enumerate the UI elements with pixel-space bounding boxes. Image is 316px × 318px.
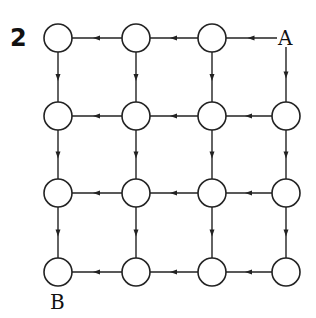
- arrow-down-icon-2-2: [210, 230, 215, 237]
- node-circle-2-0: [44, 179, 72, 207]
- diagram-canvas: 2 A B: [0, 0, 316, 318]
- grid-diagram: 2 A B: [0, 0, 316, 318]
- edges-layer: [56, 36, 289, 275]
- arrow-down-icon-1-1: [134, 152, 139, 159]
- node-circle-1-3: [272, 102, 300, 130]
- arrow-left-icon-1-1: [170, 114, 177, 119]
- arrow-down-icon-2-1: [134, 230, 139, 237]
- arrow-down-icon-1-2: [210, 152, 215, 159]
- arrow-left-icon-3-1: [170, 270, 177, 275]
- arrow-down-icon-0-0: [56, 74, 61, 81]
- arrow-down-icon-0-3: [284, 72, 289, 79]
- arrow-left-icon-0-0: [93, 36, 100, 41]
- node-circle-0-1: [122, 24, 150, 52]
- arrow-down-icon-0-1: [134, 74, 139, 81]
- figure-number: 2: [10, 24, 27, 52]
- arrow-down-icon-1-0: [56, 152, 61, 159]
- node-circle-0-0: [44, 24, 72, 52]
- node-circle-2-2: [198, 179, 226, 207]
- node-circle-1-2: [198, 102, 226, 130]
- nodes-layer: [44, 24, 300, 286]
- node-circle-1-1: [122, 102, 150, 130]
- node-circle-2-1: [122, 179, 150, 207]
- start-label-a: A: [277, 26, 293, 50]
- arrow-left-icon-2-1: [170, 191, 177, 196]
- arrow-down-icon-2-3: [284, 230, 289, 237]
- arrow-left-icon-1-2: [245, 114, 252, 119]
- arrow-left-icon-0-2: [248, 36, 255, 41]
- node-circle-3-2: [198, 258, 226, 286]
- arrow-down-icon-1-3: [284, 152, 289, 159]
- node-circle-0-2: [198, 24, 226, 52]
- node-circle-3-0: [44, 258, 72, 286]
- arrow-left-icon-2-2: [245, 191, 252, 196]
- end-label-b: B: [50, 290, 65, 314]
- arrow-left-icon-0-1: [170, 36, 177, 41]
- arrow-left-icon-1-0: [93, 114, 100, 119]
- node-circle-3-3: [272, 258, 300, 286]
- node-circle-3-1: [122, 258, 150, 286]
- node-circle-1-0: [44, 102, 72, 130]
- node-circle-2-3: [272, 179, 300, 207]
- arrow-down-icon-2-0: [56, 230, 61, 237]
- arrow-down-icon-0-2: [210, 74, 215, 81]
- arrow-left-icon-2-0: [93, 191, 100, 196]
- arrow-left-icon-3-0: [93, 270, 100, 275]
- arrow-left-icon-3-2: [245, 270, 252, 275]
